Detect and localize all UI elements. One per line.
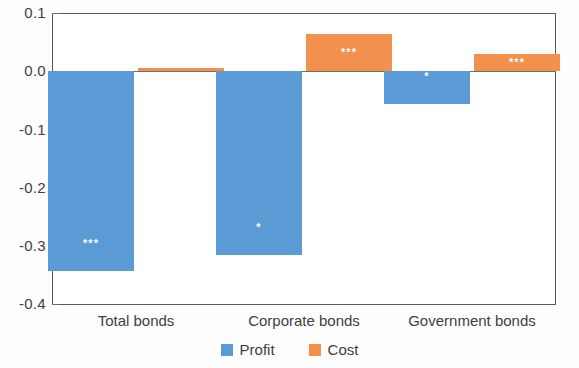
- significance-stars-government-bonds-profit: *: [384, 71, 470, 82]
- significance-stars-corporate-bonds-profit: *: [216, 222, 302, 233]
- legend-item-profit: Profit: [221, 341, 275, 358]
- y-axis-label-4: -0.3: [0, 237, 46, 254]
- cost-swatch-icon: [309, 344, 321, 356]
- bar-government-bonds-cost: ***: [474, 54, 560, 72]
- bar-total-bonds-profit: ***: [48, 71, 134, 271]
- y-tick-mark-0: [52, 13, 59, 14]
- x-axis-label-government-bonds: Government bonds: [388, 312, 556, 329]
- y-axis-label-5: -0.4: [0, 295, 46, 312]
- legend-item-cost: Cost: [309, 341, 359, 358]
- legend-label-cost: Cost: [328, 341, 359, 358]
- significance-stars-total-bonds-profit: ***: [48, 238, 134, 249]
- x-axis-label-total-bonds: Total bonds: [52, 312, 220, 329]
- chart-legend: Profit Cost: [0, 341, 579, 358]
- bar-total-bonds-cost: [138, 68, 224, 71]
- legend-label-profit: Profit: [240, 341, 275, 358]
- y-tick-mark-5: [52, 304, 59, 305]
- bar-corporate-bonds-profit: *: [216, 71, 302, 255]
- bar-government-bonds-profit: *: [384, 71, 470, 103]
- x-axis-label-corporate-bonds: Corporate bonds: [220, 312, 388, 329]
- y-axis-label-0: 0.1: [0, 4, 46, 21]
- y-axis-label-1: 0.0: [0, 62, 46, 79]
- bar-corporate-bonds-cost: ***: [306, 34, 392, 71]
- y-axis-label-3: -0.2: [0, 179, 46, 196]
- y-axis-label-2: -0.1: [0, 121, 46, 138]
- significance-stars-corporate-bonds-cost: ***: [306, 47, 392, 58]
- profit-swatch-icon: [221, 344, 233, 356]
- bar-chart: 0.1 0.0 -0.1 -0.2 -0.3 -0.4 *** * *** * …: [0, 0, 579, 368]
- significance-stars-government-bonds-cost: ***: [474, 57, 560, 68]
